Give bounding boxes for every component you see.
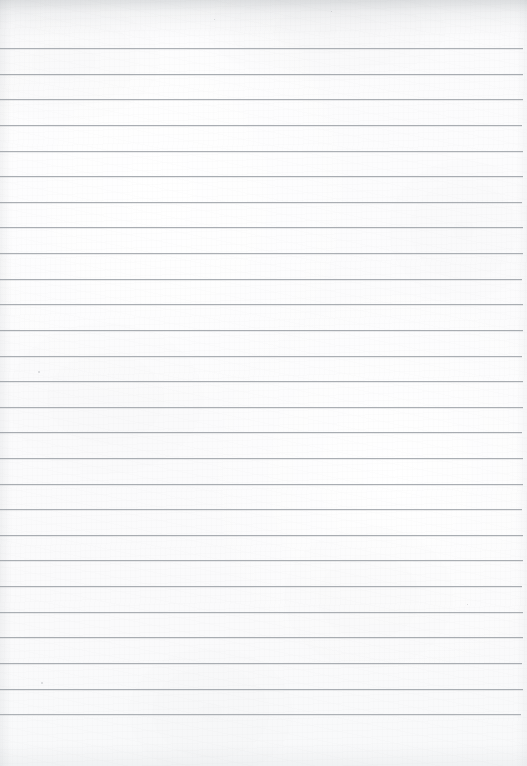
- rule-line: [0, 586, 522, 587]
- rule-line: [0, 151, 523, 152]
- rule-line: [0, 637, 523, 638]
- scan-speck: [214, 19, 215, 20]
- rule-line: [0, 560, 523, 561]
- ruled-lines-layer: [0, 0, 527, 766]
- rule-line: [0, 330, 523, 331]
- rule-line: [0, 356, 522, 357]
- rule-line: [0, 535, 523, 536]
- rule-line: [0, 202, 522, 203]
- rule-line: [0, 253, 523, 254]
- scanned-page: [0, 0, 527, 766]
- rule-line: [0, 381, 523, 382]
- scan-speck: [331, 11, 332, 12]
- rule-line: [0, 612, 523, 613]
- rule-line: [0, 304, 523, 305]
- rule-line: [0, 407, 523, 408]
- rule-line: [0, 279, 522, 280]
- rule-line: [0, 227, 523, 228]
- rule-line: [0, 99, 523, 100]
- rule-line: [0, 48, 523, 49]
- rule-line: [0, 74, 523, 75]
- rule-line: [0, 432, 522, 433]
- rule-line: [0, 125, 522, 126]
- rule-line: [0, 484, 523, 485]
- rule-line: [0, 176, 523, 177]
- rule-line: [0, 714, 521, 715]
- rule-line: [0, 663, 522, 664]
- rule-line: [0, 689, 523, 690]
- scan-speck: [38, 371, 40, 373]
- rule-line: [0, 458, 523, 459]
- scan-speck: [41, 682, 43, 684]
- rule-line: [0, 509, 522, 510]
- scan-speck: [467, 604, 468, 605]
